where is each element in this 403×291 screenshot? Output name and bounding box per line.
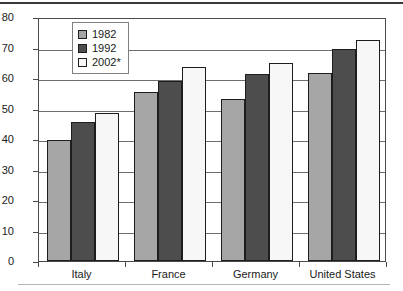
x-axis-tick <box>125 262 126 267</box>
bar-group <box>134 19 206 261</box>
bar[interactable] <box>308 73 332 261</box>
y-axis-tick <box>33 79 38 80</box>
y-axis-tick-label: 10 <box>0 226 14 237</box>
chart-legend: 198219922002* <box>72 22 129 74</box>
y-axis-tick-label: 40 <box>0 134 14 145</box>
bar-group <box>308 19 380 261</box>
legend-item-label: 1982 <box>92 29 116 40</box>
y-axis-tick-label: 30 <box>0 165 14 176</box>
legend-item-label: 2002* <box>92 57 121 68</box>
x-axis-tick <box>386 262 387 267</box>
bar[interactable] <box>71 122 95 261</box>
y-axis-tick <box>33 49 38 50</box>
x-axis-tick <box>212 262 213 267</box>
bar[interactable] <box>47 140 71 261</box>
y-axis-tick-label: 80 <box>0 12 14 23</box>
legend-item[interactable]: 1982 <box>78 27 121 41</box>
y-axis-tick-label: 50 <box>0 104 14 115</box>
y-axis-tick <box>33 232 38 233</box>
x-axis-tick <box>38 262 39 267</box>
bar-group <box>221 19 293 261</box>
legend-item[interactable]: 2002* <box>78 55 121 69</box>
y-axis-tick <box>33 171 38 172</box>
x-axis-tick-label: United States <box>299 268 386 280</box>
bar[interactable] <box>332 49 356 261</box>
x-axis-tick-label: Italy <box>38 268 125 280</box>
bar[interactable] <box>95 113 119 261</box>
y-axis-tick <box>33 201 38 202</box>
legend-item-label: 1992 <box>92 43 116 54</box>
y-axis-tick-label: 60 <box>0 73 14 84</box>
x-axis-tick-label: France <box>125 268 212 280</box>
x-axis-tick <box>299 262 300 267</box>
legend-swatch-icon <box>78 58 87 67</box>
bar[interactable] <box>269 63 293 261</box>
y-axis-tick-label: 20 <box>0 195 14 206</box>
bar[interactable] <box>356 40 380 261</box>
legend-swatch-icon <box>78 30 87 39</box>
bar[interactable] <box>221 99 245 261</box>
bar[interactable] <box>158 81 182 261</box>
bottom-divider-rule <box>18 284 390 285</box>
y-axis-tick-label: 70 <box>0 43 14 54</box>
bar[interactable] <box>134 92 158 261</box>
legend-swatch-icon <box>78 44 87 53</box>
bar[interactable] <box>245 74 269 261</box>
y-axis-tick <box>33 18 38 19</box>
legend-item[interactable]: 1992 <box>78 41 121 55</box>
x-axis-tick-label: Germany <box>212 268 299 280</box>
bar[interactable] <box>182 67 206 261</box>
top-divider-rule <box>0 2 403 4</box>
y-axis-tick <box>33 140 38 141</box>
y-axis-tick <box>33 110 38 111</box>
y-axis-tick-label: 0 <box>0 256 14 267</box>
